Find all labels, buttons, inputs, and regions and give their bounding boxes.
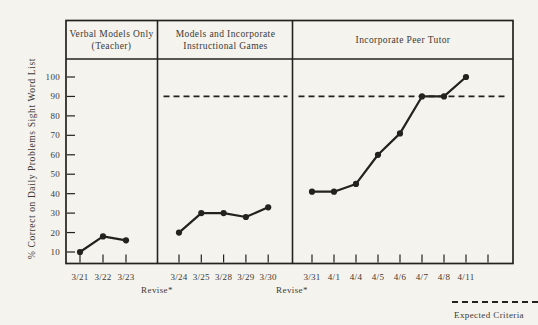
data-point — [397, 130, 403, 136]
legend-dashed-line-sample — [452, 301, 538, 303]
data-point — [331, 189, 337, 195]
y-tick-label: 50 — [50, 169, 60, 179]
x-tick-label: 3/23 — [117, 272, 134, 282]
data-point — [309, 189, 315, 195]
x-tick-label: 4/6 — [394, 272, 407, 282]
data-point — [353, 181, 359, 187]
data-point — [243, 214, 249, 220]
x-tick-label: 4/8 — [438, 272, 451, 282]
x-tick-label: 3/31 — [303, 272, 320, 282]
data-point — [198, 210, 204, 216]
data-point — [441, 93, 447, 99]
y-tick-label: 90 — [50, 91, 60, 101]
x-tick-label: 4/7 — [416, 272, 429, 282]
x-tick-label: 3/28 — [215, 272, 232, 282]
phase-header-verbal-models: Verbal Models Only (Teacher) — [66, 21, 157, 59]
revise-annotation: Revise* — [276, 285, 308, 295]
y-tick-label: 100 — [46, 72, 61, 82]
y-tick-label: 10 — [50, 247, 60, 257]
y-tick-label: 80 — [50, 111, 60, 121]
phase-header-instructional-games: Models and Incorporate Instructional Gam… — [158, 21, 293, 59]
data-point — [419, 93, 425, 99]
data-point — [265, 204, 271, 210]
legend-expected-criteria-label: Expected Criteria — [443, 310, 535, 320]
phase-header-line: (Teacher) — [92, 40, 132, 53]
y-tick-label: 30 — [50, 208, 60, 218]
data-point — [463, 74, 469, 80]
x-tick-label: 3/21 — [71, 272, 88, 282]
y-axis-label: % Correct on Daily Problems Sight Word L… — [25, 54, 40, 264]
x-tick-label: 3/30 — [260, 272, 277, 282]
data-point — [221, 210, 227, 216]
figure-canvas: 1020304050607080901003/213/223/233/243/2… — [0, 0, 538, 325]
x-tick-label: 3/22 — [94, 272, 111, 282]
x-tick-label: 4/5 — [372, 272, 385, 282]
x-tick-label: 3/24 — [170, 272, 187, 282]
data-point — [77, 249, 83, 255]
x-tick-label: 3/29 — [237, 272, 254, 282]
y-tick-label: 60 — [50, 150, 60, 160]
phase-header-line: Models and Incorporate — [176, 28, 276, 41]
revise-annotation: Revise* — [141, 285, 173, 295]
data-point — [176, 229, 182, 235]
phase-header-peer-tutor: Incorporate Peer Tutor — [293, 21, 513, 59]
y-tick-label: 40 — [50, 189, 60, 199]
data-point — [375, 152, 381, 158]
data-point — [100, 233, 106, 239]
x-tick-label: 3/25 — [193, 272, 210, 282]
y-tick-label: 70 — [50, 130, 60, 140]
data-point — [123, 237, 129, 243]
x-tick-label: 4/4 — [350, 272, 363, 282]
x-tick-label: 4/11 — [458, 272, 475, 282]
phase-header-line: Verbal Models Only — [69, 28, 153, 41]
phase-header-line: Instructional Games — [183, 40, 267, 53]
y-tick-label: 20 — [50, 228, 60, 238]
x-tick-label: 4/1 — [328, 272, 340, 282]
phase-header-line: Incorporate Peer Tutor — [356, 34, 451, 47]
